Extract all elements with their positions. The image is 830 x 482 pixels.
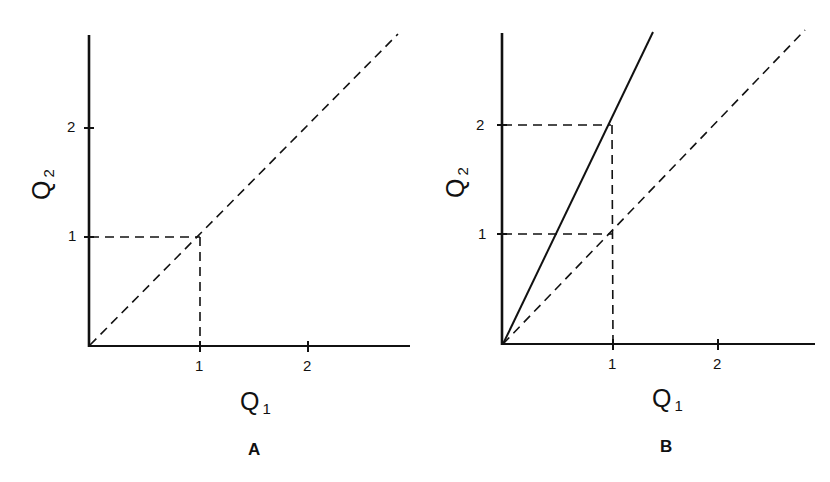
panel-a-label: A: [248, 440, 260, 460]
panel-b-label: B: [660, 437, 672, 457]
panel-b-diagonal-dashed: [503, 30, 805, 344]
panel-b-steep-solid-line: [503, 32, 653, 344]
panel-a-ytick-label-2: 2: [67, 118, 75, 135]
axis-letter: Q: [652, 384, 671, 412]
axis-subscript: 2: [454, 167, 471, 175]
panel-a-plot: [84, 34, 410, 352]
panel-a-ytick-label-1: 1: [68, 227, 76, 244]
charts-canvas: [0, 0, 830, 482]
panel-b-x-axis-title: Q1: [652, 384, 683, 414]
panel-b-y-axis-title: Q2: [441, 167, 471, 198]
panel-b-guide-v1: [612, 125, 613, 344]
axis-letter: Q: [240, 387, 259, 415]
axis-subscript: 1: [674, 397, 682, 414]
axis-subscript: 2: [40, 169, 57, 177]
panel-a-x-axis-title: Q1: [240, 387, 271, 417]
panel-b-xtick-label-1: 1: [608, 355, 616, 372]
panel-a-xtick-label-2: 2: [303, 357, 311, 374]
panel-b-plot: [497, 30, 815, 350]
panel-a-diagonal-dashed: [90, 34, 398, 345]
panel-a-xtick-label-1: 1: [195, 357, 203, 374]
panel-b-xtick-label-2: 2: [713, 355, 721, 372]
panel-b-ytick-label-2: 2: [476, 116, 484, 133]
axis-letter: Q: [441, 179, 469, 198]
panel-b-ytick-label-1: 1: [478, 225, 486, 242]
panel-a-y-axis-title: Q2: [27, 169, 57, 200]
axis-subscript: 1: [262, 400, 270, 417]
axis-letter: Q: [27, 181, 55, 200]
